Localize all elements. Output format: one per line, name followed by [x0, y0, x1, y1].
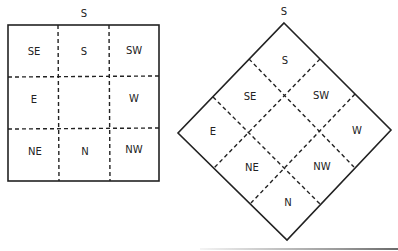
square-divider-h1 — [8, 76, 159, 77]
square-cell-e: E — [31, 94, 37, 105]
diamond-cell-se: SE — [244, 91, 257, 102]
diamond-cell-s: S — [282, 55, 288, 66]
direction-grid-diagrams: S SE S SW E W NE N NW S S SE SW E W NE N… — [0, 0, 398, 251]
diamond-cell-nw: NW — [313, 161, 330, 172]
square-cell-w: W — [129, 93, 139, 104]
diamond-cell-e: E — [210, 126, 216, 137]
square-cell-s: S — [81, 46, 87, 57]
square-divider-h2 — [8, 128, 159, 129]
square-cell-n: N — [81, 146, 88, 157]
square-cell-se: SE — [28, 46, 41, 57]
square-top-label: S — [81, 8, 87, 19]
diamond-cell-ne: NE — [245, 162, 259, 173]
diamond-cell-n: N — [284, 197, 291, 208]
diamond-grid: S S SE SW E W NE NW N — [178, 6, 391, 240]
square-cell-sw: SW — [126, 45, 142, 56]
square-grid: S SE S SW E W NE N NW — [8, 8, 159, 181]
diamond-cell-w: W — [352, 125, 362, 136]
square-divider-v2 — [109, 25, 110, 181]
square-divider-v1 — [58, 25, 59, 181]
diamond-top-label: S — [281, 6, 287, 17]
diamond-cell-sw: SW — [313, 90, 329, 101]
square-cell-nw: NW — [125, 144, 142, 155]
page-edge-shadow — [200, 248, 398, 250]
square-cell-ne: NE — [28, 146, 42, 157]
diamond-divider-2 — [213, 97, 320, 204]
